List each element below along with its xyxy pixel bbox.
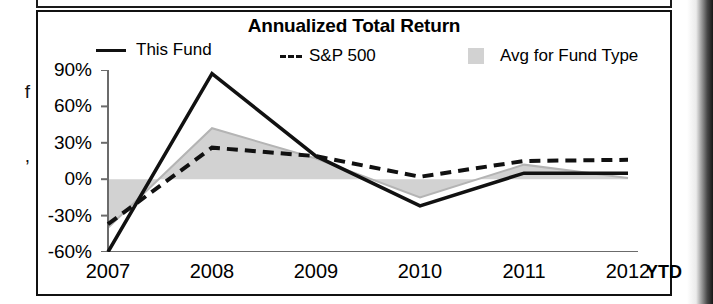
legend-item-sp500: S&P 500 bbox=[280, 46, 376, 66]
plot-area bbox=[100, 70, 638, 252]
chart-legend: This Fund S&P 500 Avg for Fund Type bbox=[38, 40, 670, 66]
x-tick-label: 2010 bbox=[398, 260, 443, 283]
ytd-label: YTD bbox=[646, 262, 682, 283]
left-margin-text-fragments: f , bbox=[2, 60, 30, 188]
legend-label-this-fund: This Fund bbox=[136, 40, 212, 60]
margin-fragment-1: f bbox=[2, 60, 30, 124]
scan-edge-shadow bbox=[687, 0, 713, 304]
x-tick-label: 2012 bbox=[606, 260, 651, 283]
y-tick-label: 30% bbox=[54, 132, 92, 154]
y-tick-label: 60% bbox=[54, 95, 92, 117]
chart-title: Annualized Total Return bbox=[38, 15, 670, 37]
legend-label-avg-fund-type: Avg for Fund Type bbox=[500, 46, 638, 66]
chart-plot-svg bbox=[100, 70, 638, 252]
y-tick-label: 0% bbox=[65, 168, 92, 190]
legend-item-this-fund: This Fund bbox=[96, 40, 212, 60]
x-tick-label: 2007 bbox=[86, 260, 131, 283]
y-tick-label: 90% bbox=[54, 59, 92, 81]
margin-fragment-2: , bbox=[2, 124, 30, 188]
scanned-page-top-stub bbox=[36, 0, 672, 8]
annualized-total-return-chart: Annualized Total Return This Fund S&P 50… bbox=[36, 10, 672, 296]
x-axis: 200720082009201020112012 bbox=[100, 260, 638, 288]
legend-label-sp500: S&P 500 bbox=[309, 46, 376, 66]
dashed-line-swatch-icon bbox=[280, 55, 302, 58]
y-tick-label: -30% bbox=[48, 205, 92, 227]
y-axis: 90%60%30%0%-30%-60% bbox=[38, 70, 96, 252]
x-tick-label: 2011 bbox=[502, 260, 545, 283]
solid-line-swatch-icon bbox=[96, 49, 126, 52]
x-tick-label: 2008 bbox=[190, 260, 235, 283]
legend-item-avg-fund-type: Avg for Fund Type bbox=[468, 46, 638, 66]
avg-fund-type-band bbox=[108, 128, 628, 227]
gray-band-swatch-icon bbox=[468, 48, 484, 64]
x-tick-label: 2009 bbox=[294, 260, 339, 283]
